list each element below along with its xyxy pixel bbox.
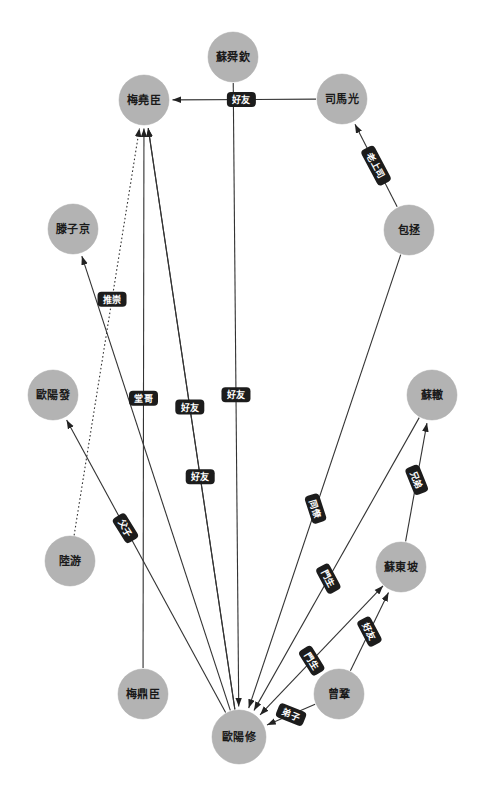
node-label: 陸游 xyxy=(59,554,82,568)
graph-node-zenggo[interactable]: 曾鞏 xyxy=(314,669,364,719)
edge-label: 父子 xyxy=(111,512,139,545)
node-label: 蘇舜欽 xyxy=(215,50,251,64)
edge-label-text: 好友 xyxy=(179,402,199,413)
graph-node-tengzj[interactable]: 滕子京 xyxy=(48,204,98,254)
edge-label: 好友 xyxy=(186,469,215,484)
edge-line xyxy=(148,128,235,709)
node-label: 曾鞏 xyxy=(328,687,351,701)
edge-label: 門生 xyxy=(315,562,342,595)
edge-label: 弟子 xyxy=(275,702,308,727)
node-label: 歐陽修 xyxy=(222,730,257,744)
edge-label-text: 好友 xyxy=(190,471,210,482)
edge-label: 好友 xyxy=(221,387,250,402)
edge-label: 推崇 xyxy=(98,292,127,307)
relationship-graph: 蘇舜欽梅堯臣司馬光包拯滕子京歐陽發蘇轍陸游蘇東坡梅鼎臣曾鞏歐陽修 好友好友老上司… xyxy=(0,0,480,794)
node-label: 滕子京 xyxy=(56,222,91,236)
node-label: 梅堯臣 xyxy=(127,93,162,107)
edge-label: 好友 xyxy=(227,92,256,107)
node-label: 司馬光 xyxy=(325,92,360,106)
graph-node-oyf[interactable]: 歐陽發 xyxy=(28,370,78,420)
graph-node-luyou[interactable]: 陸游 xyxy=(45,536,95,586)
edge-label: 兄弟 xyxy=(404,464,429,497)
graph-node-meidc[interactable]: 梅鼎臣 xyxy=(118,669,168,719)
node-label: 歐陽發 xyxy=(36,388,71,402)
graph-node-simag[interactable]: 司馬光 xyxy=(317,74,367,124)
graph-node-susq[interactable]: 蘇舜欽 xyxy=(208,32,258,82)
edge-label-layer: 好友好友老上司同僚父子推崇堂哥好友門生兄弟門生好友弟子好友 xyxy=(98,92,430,727)
graph-node-suzhe[interactable]: 蘇轍 xyxy=(407,370,457,420)
edge-label: 好友 xyxy=(356,615,383,648)
edge-label: 門生 xyxy=(298,644,326,677)
node-label: 梅鼎臣 xyxy=(126,687,161,701)
graph-node-baozh[interactable]: 包拯 xyxy=(384,205,434,255)
edge-label-text: 推崇 xyxy=(103,294,122,305)
edge-label: 好友 xyxy=(175,400,204,415)
edge-label-text: 好友 xyxy=(226,389,246,400)
graph-node-oyx[interactable]: 歐陽修 xyxy=(212,710,266,764)
graph-edge[interactable] xyxy=(148,128,235,709)
graph-node-meiyc[interactable]: 梅堯臣 xyxy=(119,75,169,125)
graph-node-sudp[interactable]: 蘇東坡 xyxy=(376,542,426,592)
edge-label: 堂哥 xyxy=(129,391,158,406)
node-label: 蘇東坡 xyxy=(383,560,419,574)
edge-label-text: 堂哥 xyxy=(134,393,153,404)
edge-label: 老上司 xyxy=(360,144,392,186)
edge-label: 同僚 xyxy=(304,492,327,524)
node-label: 包拯 xyxy=(397,223,422,237)
edge-label-text: 好友 xyxy=(231,94,251,105)
diagram-canvas: 蘇舜欽梅堯臣司馬光包拯滕子京歐陽發蘇轍陸游蘇東坡梅鼎臣曾鞏歐陽修 好友好友老上司… xyxy=(0,0,480,794)
node-label: 蘇轍 xyxy=(420,388,445,402)
